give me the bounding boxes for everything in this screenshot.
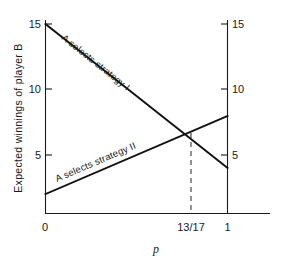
series-label-strategy-i: A selects strategy I — [60, 32, 133, 93]
x-tick-label-0: 0 — [42, 221, 48, 233]
y-axis-title: Expected winnings of player B — [12, 43, 24, 192]
x-tick-label-1: 1 — [224, 221, 230, 233]
chart-container: 15 10 5 15 10 5 0 13/17 1 p Expected win… — [0, 0, 292, 265]
series-label-strategy-ii: A selects strategy II — [53, 140, 137, 184]
x-tick-label-13-17: 13/17 — [177, 221, 205, 233]
x-axis-title: p — [152, 242, 159, 256]
y-tick-label-left-10: 10 — [29, 83, 41, 95]
series-line-strategy-ii — [46, 116, 228, 194]
y-tick-label-right-10: 10 — [232, 83, 244, 95]
y-tick-label-left-15: 15 — [29, 18, 41, 30]
y-tick-label-right-5: 5 — [232, 149, 238, 161]
y-tick-label-left-5: 5 — [35, 149, 41, 161]
y-tick-label-right-15: 15 — [232, 18, 244, 30]
expected-winnings-line-chart: 15 10 5 15 10 5 0 13/17 1 p Expected win… — [0, 0, 292, 265]
